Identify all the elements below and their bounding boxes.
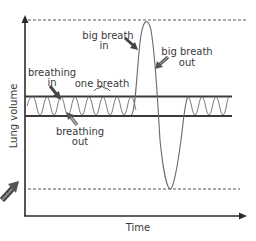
- breathing-wave-left: [27, 97, 136, 115]
- big-breath-out-arrow: [155, 57, 168, 69]
- y-axis-arrowhead: [22, 15, 29, 23]
- big-breath-out-label-line2: out: [179, 57, 195, 68]
- breathing-out-label-line2: out: [72, 136, 88, 147]
- x-axis-arrowhead: [239, 213, 247, 220]
- breathing-in-label-line2: in: [47, 77, 56, 88]
- one-breath-label: one breath: [75, 78, 130, 89]
- big-breath-out-label-line1: big breath: [161, 46, 212, 57]
- breathing-wave-right: [188, 97, 229, 115]
- pointer-arrow-icon: [2, 181, 19, 200]
- y-axis-label: Lung volume: [8, 84, 19, 149]
- x-axis-label: Time: [125, 222, 150, 233]
- lung-volume-diagram: Lung volume Time big breath in big breat…: [0, 0, 256, 241]
- big-breath-in-label-line2: in: [99, 40, 108, 51]
- breathing-in-arrow: [50, 86, 61, 100]
- breathing-out-arrow: [66, 112, 77, 125]
